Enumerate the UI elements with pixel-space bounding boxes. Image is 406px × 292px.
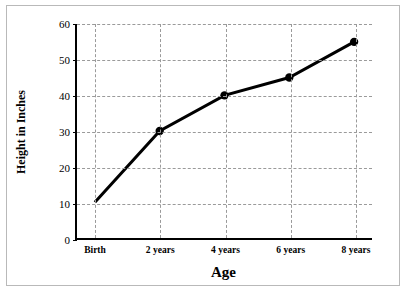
- gridline-vertical: [226, 24, 227, 238]
- y-axis-tick-mark: [73, 60, 77, 61]
- gridline-vertical: [291, 24, 292, 238]
- y-axis-tick-label: 10: [59, 198, 70, 210]
- y-axis-label: Height in Inches: [14, 90, 29, 174]
- plot-area: 0102030405060Birth2 years4 years6 years8…: [75, 24, 372, 240]
- y-axis-tick-mark: [73, 168, 77, 169]
- y-axis-tick-label: 30: [59, 126, 70, 138]
- data-point-marker: [285, 73, 293, 81]
- chart-frame: Height in Inches 0102030405060Birth2 yea…: [6, 5, 400, 286]
- y-axis-tick-mark: [73, 240, 77, 241]
- gridline-vertical: [95, 24, 96, 238]
- gridline-horizontal: [77, 204, 372, 205]
- x-axis-tick-label: 8 years: [342, 245, 371, 255]
- x-axis-tick-label: 6 years: [276, 245, 305, 255]
- x-axis-tick-label: 2 years: [146, 245, 175, 255]
- x-axis-label: Age: [75, 264, 372, 281]
- gridline-horizontal: [77, 96, 372, 97]
- gridline-horizontal: [77, 168, 372, 169]
- x-axis-tick-label: 4 years: [211, 245, 240, 255]
- series-polyline: [95, 42, 354, 203]
- y-axis-tick-label: 50: [59, 54, 70, 66]
- gridline-horizontal: [77, 60, 372, 61]
- gridline-vertical: [356, 24, 357, 238]
- gridline-vertical: [160, 24, 161, 238]
- y-axis-tick-label: 60: [59, 18, 70, 30]
- data-series-line: [77, 24, 372, 238]
- gridline-horizontal: [77, 132, 372, 133]
- y-axis-tick-mark: [73, 132, 77, 133]
- y-axis-tick-label: 0: [65, 234, 71, 246]
- x-axis-tick-label: Birth: [84, 245, 106, 255]
- y-axis-tick-mark: [73, 96, 77, 97]
- chart-page: Height in Inches 0102030405060Birth2 yea…: [0, 0, 406, 292]
- y-axis-tick-label: 40: [59, 90, 70, 102]
- y-axis-tick-label: 20: [59, 162, 70, 174]
- y-axis-tick-mark: [73, 24, 77, 25]
- y-axis-tick-mark: [73, 204, 77, 205]
- gridline-horizontal: [77, 24, 372, 25]
- data-point-marker: [350, 38, 358, 46]
